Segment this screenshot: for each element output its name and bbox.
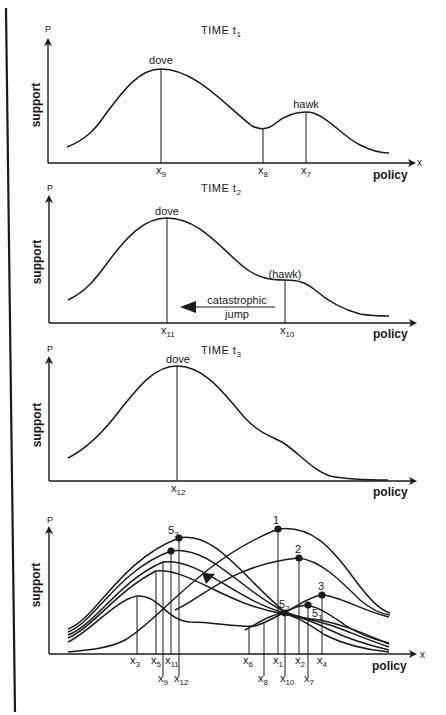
tick-label: x10 <box>280 324 295 339</box>
y-axis-label: support <box>29 563 43 608</box>
y-axis-label: support <box>30 403 44 448</box>
y-axis-symbol: P <box>47 344 53 354</box>
tick-label: x11 <box>165 654 179 669</box>
panel-title: TIME t1 <box>201 24 241 39</box>
tick-label: x3 <box>130 654 141 669</box>
support-curve <box>68 366 388 480</box>
tick-label: x6 <box>243 654 254 669</box>
tick-label: x8 <box>258 672 269 687</box>
tick-label: x9 <box>158 672 169 687</box>
x-axis-label: policy <box>372 659 407 673</box>
left-border-line <box>6 8 15 712</box>
x-axis-label: policy <box>373 327 408 341</box>
point-1 <box>274 525 281 532</box>
tick-label: x2 <box>295 654 306 669</box>
curve-x3 <box>68 596 389 643</box>
y-axis-symbol: P <box>47 183 53 193</box>
panel-title: TIME t3 <box>201 344 241 359</box>
point-label: 53 <box>168 524 179 539</box>
tick-label: x11 <box>161 324 175 339</box>
dove-label: dove <box>166 353 190 365</box>
tick-label: x1 <box>273 654 284 669</box>
tick-label: x7 <box>304 672 315 687</box>
x-axis-label: policy <box>373 485 408 499</box>
panel-t2: TIME t2 P support policy dove (hawk) cat… <box>30 182 415 341</box>
annotation-line-1: catastrophic <box>207 294 267 306</box>
y-axis-label: support <box>30 240 44 285</box>
dove-label: dove <box>155 205 179 217</box>
point-label: 3 <box>318 580 324 592</box>
tick-label: x4 <box>317 654 328 669</box>
point-5-1 <box>304 601 311 608</box>
tick-label: x12 <box>171 482 186 497</box>
point-label: 1 <box>273 514 279 526</box>
panel-t1: TIME t1 P x support policy dove hawk x9 … <box>29 24 422 182</box>
y-axis-symbol: P <box>47 515 53 525</box>
dove-label: dove <box>149 54 173 66</box>
y-axis-symbol: P <box>45 24 51 34</box>
panel-summary: P x support policy <box>29 514 425 687</box>
point-x11 <box>167 547 174 554</box>
curve-1 <box>68 528 390 652</box>
support-curve <box>67 69 389 153</box>
tick-label: x8 <box>258 164 269 179</box>
point-3 <box>318 591 325 598</box>
tick-label: x9 <box>156 164 167 179</box>
catastrophe-diagram: TIME t1 P x support policy dove hawk x9 … <box>0 0 446 715</box>
panel-title: TIME t2 <box>201 182 241 197</box>
point-label: 52 <box>279 598 290 613</box>
x-axis-label: policy <box>373 168 408 182</box>
tick-label: x10 <box>280 672 295 687</box>
curve-5-3 <box>68 537 389 644</box>
x-axis-symbol: x <box>417 157 422 168</box>
x-axis-symbol: x <box>420 649 425 660</box>
annotation-line-2: jump <box>224 308 249 320</box>
hawk-label: (hawk) <box>268 268 301 280</box>
point-2 <box>295 554 302 561</box>
y-axis-label: support <box>29 83 43 128</box>
tick-label: x7 <box>301 164 312 179</box>
hawk-label: hawk <box>293 98 319 110</box>
panel-t3: TIME t3 P support policy dove x12 <box>30 344 415 499</box>
arrow-head-icon <box>180 301 196 313</box>
tick-label: x12 <box>174 672 189 687</box>
point-label: 2 <box>295 543 301 555</box>
tick-label: x5 <box>151 654 162 669</box>
